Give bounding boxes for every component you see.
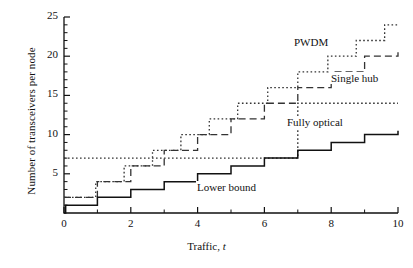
x-tick-label: 4 bbox=[185, 217, 211, 229]
x-tick-label: 2 bbox=[118, 217, 144, 229]
y-tick-label: 20 bbox=[32, 48, 58, 60]
x-tick-label: 0 bbox=[51, 217, 77, 229]
y-tick-label: 25 bbox=[32, 9, 58, 21]
x-tick-label: 8 bbox=[318, 217, 344, 229]
y-tick-label: 5 bbox=[32, 166, 58, 178]
series-annotation-single-hub: Single hub bbox=[330, 72, 379, 84]
y-tick-label: 15 bbox=[32, 87, 58, 99]
chart-figure: Number of transceivers per node Traffic,… bbox=[0, 0, 413, 268]
series-annotation-fully-optical: Fully optical bbox=[286, 116, 344, 128]
series-annotation-pwdm: PWDM bbox=[293, 36, 329, 48]
x-tick-label: 6 bbox=[251, 217, 277, 229]
y-tick-label: 10 bbox=[32, 127, 58, 139]
series-annotation-lower-bound: Lower bound bbox=[196, 181, 257, 193]
x-tick-label: 10 bbox=[385, 217, 411, 229]
series-line-lower-bound bbox=[64, 131, 398, 213]
